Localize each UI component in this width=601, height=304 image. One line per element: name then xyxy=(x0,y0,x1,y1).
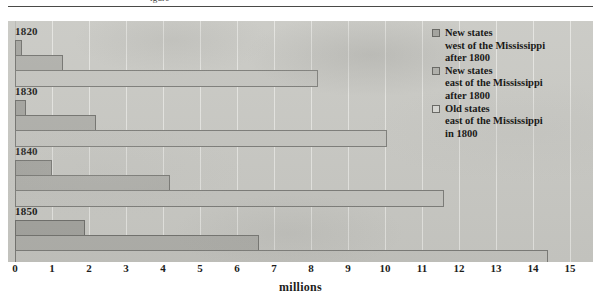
legend-item-east[interactable]: New stateseast of the Mississippiafter 1… xyxy=(432,65,592,103)
x-tick-label-15: 15 xyxy=(565,262,576,274)
x-tick-label-14: 14 xyxy=(528,262,539,274)
legend-label-east-line-0: New states xyxy=(445,65,592,78)
group-label-1830: 1830 xyxy=(15,85,38,97)
gridline-11 xyxy=(422,21,423,262)
legend-label-west-line-1: west of the Mississippi xyxy=(445,40,592,53)
group-label-1850: 1850 xyxy=(15,205,38,217)
x-axis-title: millions xyxy=(8,280,593,295)
figure-caption-clipped: igure xyxy=(0,0,601,9)
x-axis: millions 0123456789101112131415 xyxy=(8,262,593,304)
x-tick-label-0: 0 xyxy=(12,262,18,274)
legend-label-east-line-2: after 1800 xyxy=(445,90,592,103)
x-tick-label-13: 13 xyxy=(491,262,502,274)
legend-swatch-old xyxy=(432,105,440,113)
legend-item-west[interactable]: New stateswest of the Mississippiafter 1… xyxy=(432,27,592,65)
legend-item-old[interactable]: Old stateseast of the Mississippiin 1800 xyxy=(432,103,592,141)
group-label-1820: 1820 xyxy=(15,25,38,37)
bars-1850 xyxy=(8,220,593,262)
bar-1830-old[interactable] xyxy=(15,130,387,147)
chart-figure: igure 1820183018401850 New stateswest of… xyxy=(0,0,601,304)
x-tick-label-12: 12 xyxy=(454,262,465,274)
x-tick-label-3: 3 xyxy=(123,262,129,274)
legend-label-old-line-2: in 1800 xyxy=(445,128,592,141)
legend-label-east-line-1: east of the Mississippi xyxy=(445,77,592,90)
legend-label-west-line-0: New states xyxy=(445,27,592,40)
bars-1840 xyxy=(8,160,593,205)
x-tick-label-4: 4 xyxy=(160,262,166,274)
chart-legend: New stateswest of the Mississippiafter 1… xyxy=(432,27,592,140)
legend-swatch-west xyxy=(432,29,440,37)
x-tick-label-1: 1 xyxy=(49,262,55,274)
bar-1840-old[interactable] xyxy=(15,190,444,207)
x-tick-label-9: 9 xyxy=(345,262,351,274)
x-tick-label-7: 7 xyxy=(271,262,277,274)
caption-divider-rule xyxy=(8,6,593,7)
x-tick-label-8: 8 xyxy=(308,262,314,274)
group-label-1840: 1840 xyxy=(15,145,38,157)
x-tick-label-10: 10 xyxy=(380,262,391,274)
figure-caption-text: igure xyxy=(150,0,170,3)
x-tick-label-2: 2 xyxy=(86,262,92,274)
x-tick-label-5: 5 xyxy=(197,262,203,274)
legend-swatch-east xyxy=(432,67,440,75)
x-tick-label-11: 11 xyxy=(417,262,427,274)
legend-label-west-line-2: after 1800 xyxy=(445,52,592,65)
legend-label-old-line-1: east of the Mississippi xyxy=(445,115,592,128)
x-tick-label-6: 6 xyxy=(234,262,240,274)
legend-label-old-line-0: Old states xyxy=(445,103,592,116)
bar-1820-old[interactable] xyxy=(15,70,318,87)
bar-1850-old[interactable] xyxy=(15,250,548,262)
